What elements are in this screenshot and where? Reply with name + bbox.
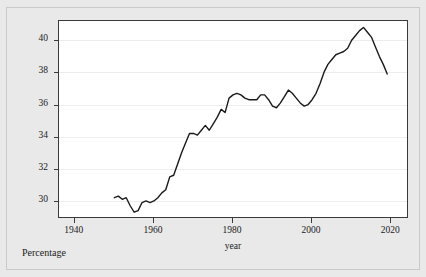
plot-area bbox=[58, 20, 408, 218]
x-tick-label: 1940 bbox=[64, 226, 83, 236]
y-tick-label: 30 bbox=[0, 195, 48, 205]
x-tick-label: 1960 bbox=[143, 226, 162, 236]
x-tick-mark bbox=[232, 218, 233, 223]
chart-caption: Percentage bbox=[22, 247, 66, 258]
x-tick-label: 2000 bbox=[302, 226, 321, 236]
figure-container: Not in labor force out of population age… bbox=[0, 0, 426, 277]
y-tick-label: 40 bbox=[0, 34, 48, 44]
x-tick-label: 2020 bbox=[381, 226, 400, 236]
series-line-chart bbox=[59, 21, 407, 217]
y-tick-label: 36 bbox=[0, 99, 48, 109]
y-tick-label: 34 bbox=[0, 131, 48, 141]
y-axis-label-line-2: age 15 and above bbox=[5, 0, 16, 18]
x-tick-mark bbox=[390, 218, 391, 223]
y-tick-label: 32 bbox=[0, 163, 48, 173]
y-tick-label: 38 bbox=[0, 66, 48, 76]
x-axis-label: year bbox=[58, 241, 408, 251]
x-axis-ticks: 19401960198020002020 bbox=[58, 218, 408, 236]
series-polyline bbox=[114, 27, 387, 212]
x-tick-mark bbox=[74, 218, 75, 223]
x-tick-mark bbox=[153, 218, 154, 223]
y-axis-label: Not in labor force out of population age… bbox=[0, 0, 16, 18]
x-tick-mark bbox=[311, 218, 312, 223]
x-tick-label: 1980 bbox=[223, 226, 242, 236]
